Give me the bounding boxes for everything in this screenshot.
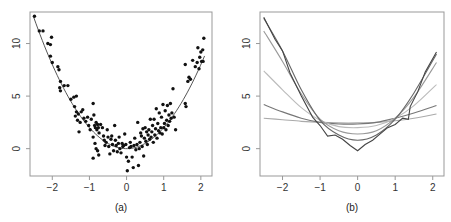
data-point [150,130,153,133]
data-point [163,122,166,125]
series-line-interp [264,17,437,151]
panel-a: −2−10120510(a) [11,12,212,213]
data-point [49,43,52,46]
data-point [117,142,120,145]
y-tick-label: 10 [11,38,22,50]
data-point [109,138,112,141]
data-point [58,86,61,89]
data-point [103,144,106,147]
data-point [69,98,72,101]
y-tick-label: 10 [241,38,252,50]
data-point [88,128,91,131]
data-point [124,143,127,146]
y-tick-label: 0 [241,145,252,151]
data-point [191,59,194,62]
data-point [113,124,116,127]
data-point [165,119,168,122]
data-point [135,143,138,146]
data-point [117,135,120,138]
data-point [143,136,146,139]
data-point [169,116,172,119]
y-tick-label: 5 [241,93,252,99]
data-point [90,118,93,121]
data-point [172,115,175,118]
x-tick-label: 0 [124,182,130,193]
data-point [153,133,156,136]
data-point [104,141,107,144]
data-point [161,132,164,135]
data-point [146,143,149,146]
data-point [202,37,205,40]
x-tick-label: −1 [314,182,326,193]
data-point [140,134,143,137]
data-point [184,63,187,66]
data-point [38,29,41,32]
data-point [92,113,95,116]
data-point [138,147,141,150]
data-point [56,65,59,68]
data-point [139,131,142,134]
data-point [91,102,94,105]
data-point [77,130,80,133]
data-point [136,121,139,124]
data-point [97,126,100,129]
data-point [97,131,100,134]
data-point [155,136,158,139]
figure: −2−10120510(a) −2−10120510(b) [0,0,451,222]
data-point [107,145,110,148]
data-point [138,141,141,144]
data-point [81,108,84,111]
data-point [82,116,85,119]
data-point [112,149,115,152]
x-tick-label: −2 [277,182,289,193]
data-point [164,109,167,112]
data-point [142,154,145,157]
data-point [194,65,197,68]
data-point [171,87,174,90]
panel-label: (b) [346,202,358,213]
fit-curve [34,17,205,148]
data-point [102,134,105,137]
y-tick-label: 5 [11,93,22,99]
data-point [164,128,167,131]
data-point [159,126,162,129]
series-line-smooth-1 [264,114,437,123]
data-point [132,166,135,169]
data-point [78,121,81,124]
data-point [73,105,76,108]
data-point [130,155,133,158]
y-tick-label: 0 [11,145,22,151]
data-point [41,29,44,32]
data-point [201,60,204,63]
panel-label: (a) [115,202,127,213]
data-point [196,46,199,49]
data-point [59,89,62,92]
data-point [184,105,187,108]
data-point [149,118,152,121]
data-point [125,155,128,158]
data-point [133,136,136,139]
data-point [167,113,170,116]
data-point [158,111,161,114]
data-point [132,144,135,147]
data-point [140,145,143,148]
data-point [144,140,147,143]
data-point [154,127,157,130]
data-point [134,148,137,151]
data-point [149,135,152,138]
data-point [49,54,52,57]
data-point [66,84,69,87]
data-point [106,135,109,138]
data-point [99,123,102,126]
series-line-smooth-5 [264,18,437,140]
data-point [119,151,122,154]
data-point [74,114,77,117]
data-point [174,128,177,131]
data-point [129,141,132,144]
data-point [197,67,200,70]
data-point [93,142,96,145]
data-point [50,36,53,39]
data-point [166,104,169,107]
x-tick-label: −2 [47,182,59,193]
x-tick-label: 1 [161,182,167,193]
